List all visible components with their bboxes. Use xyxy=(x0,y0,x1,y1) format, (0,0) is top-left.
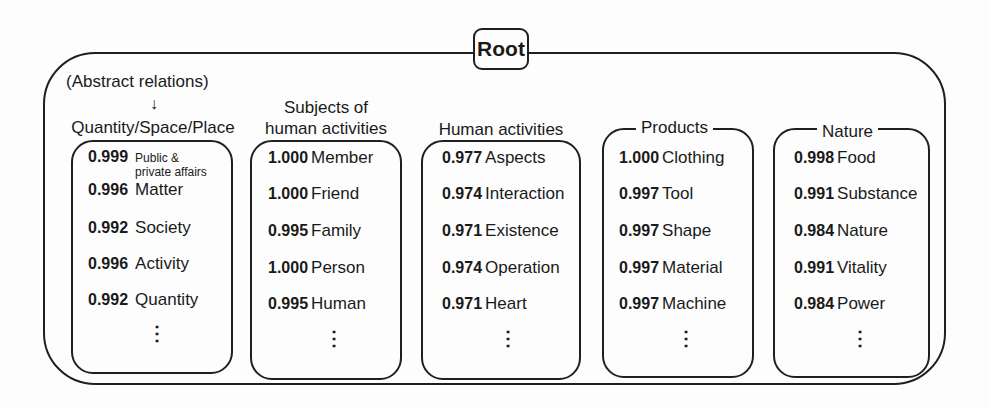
score: 0.992 xyxy=(88,291,128,309)
term: Human xyxy=(311,294,366,314)
column-title-human-activities: Human activities xyxy=(421,119,581,140)
score: 0.996 xyxy=(88,255,128,273)
list-item: 0.996 Matter xyxy=(88,180,183,200)
score: 0.997 xyxy=(619,259,659,277)
score: 0.995 xyxy=(268,295,308,313)
score: 0.991 xyxy=(794,185,834,203)
score: 1.000 xyxy=(268,259,308,277)
list-item: 1.000 Person xyxy=(268,258,365,278)
arrow-down-icon: ↓ xyxy=(150,95,158,113)
term: Heart xyxy=(485,294,527,314)
list-item: 0.991 Vitality xyxy=(794,258,887,278)
score: 0.984 xyxy=(794,295,834,313)
ellipsis-icon: ⋮ xyxy=(676,335,680,341)
ellipsis-icon: ⋮ xyxy=(850,335,854,341)
term: Friend xyxy=(311,184,359,204)
term: Quantity xyxy=(135,290,198,310)
term: Power xyxy=(837,294,885,314)
score: 0.971 xyxy=(442,222,482,240)
title-line1: Subjects of xyxy=(250,97,402,118)
score: 0.996 xyxy=(88,181,128,199)
list-item: 0.974 Operation xyxy=(442,258,560,278)
score: 0.971 xyxy=(442,295,482,313)
term: Family xyxy=(311,221,361,241)
term: Tool xyxy=(662,184,693,204)
score: 0.984 xyxy=(794,222,834,240)
score: 0.974 xyxy=(442,259,482,277)
term: Interaction xyxy=(485,184,564,204)
list-item: 0.995 Human xyxy=(268,294,366,314)
abstract-relations-note: (Abstract relations) xyxy=(66,72,209,92)
list-item: 0.999 Public & private affairs xyxy=(88,148,207,179)
column-title-products: Products xyxy=(636,117,713,138)
list-item: 0.977 Aspects xyxy=(442,148,546,168)
term: Member xyxy=(311,148,373,168)
score: 0.974 xyxy=(442,185,482,203)
term-line2: private affairs xyxy=(135,165,207,179)
ellipsis-icon: ⋮ xyxy=(147,330,151,336)
column-title-quantity-space-place: Quantity/Space/Place xyxy=(58,117,248,138)
list-item: 0.995 Family xyxy=(268,221,361,241)
root-node: Root xyxy=(473,28,529,70)
term: Material xyxy=(662,258,722,278)
list-item: 0.971 Heart xyxy=(442,294,527,314)
list-item: 0.984 Power xyxy=(794,294,885,314)
term: Food xyxy=(837,148,876,168)
score: 1.000 xyxy=(268,185,308,203)
term: Clothing xyxy=(662,148,724,168)
score: 0.977 xyxy=(442,149,482,167)
term: Shape xyxy=(662,221,711,241)
list-item: 0.996 Activity xyxy=(88,254,189,274)
score: 0.991 xyxy=(794,259,834,277)
term: Activity xyxy=(135,254,189,274)
score: 0.997 xyxy=(619,185,659,203)
list-item: 1.000 Member xyxy=(268,148,373,168)
list-item: 1.000 Friend xyxy=(268,184,359,204)
score: 0.998 xyxy=(794,149,834,167)
ellipsis-icon: ⋮ xyxy=(324,335,328,341)
list-item: 0.997 Material xyxy=(619,258,723,278)
term: Machine xyxy=(662,294,726,314)
score: 1.000 xyxy=(268,149,308,167)
score: 0.997 xyxy=(619,295,659,313)
term: Public & xyxy=(135,151,207,165)
term: Vitality xyxy=(837,258,887,278)
list-item: 0.998 Food xyxy=(794,148,876,168)
list-item: 0.992 Quantity xyxy=(88,290,198,310)
score: 1.000 xyxy=(619,149,659,167)
list-item: 0.997 Machine xyxy=(619,294,726,314)
list-item: 0.997 Tool xyxy=(619,184,693,204)
column-title-nature: Nature xyxy=(817,121,878,142)
list-item: 0.971 Existence xyxy=(442,221,559,241)
list-item: 0.997 Shape xyxy=(619,221,711,241)
term: Society xyxy=(135,218,191,238)
score: 0.997 xyxy=(619,222,659,240)
term: Existence xyxy=(485,221,559,241)
list-item: 0.974 Interaction xyxy=(442,184,564,204)
score: 0.999 xyxy=(88,148,128,166)
score: 0.995 xyxy=(268,222,308,240)
term: Person xyxy=(311,258,365,278)
score: 0.992 xyxy=(88,219,128,237)
term: Aspects xyxy=(485,148,545,168)
term: Operation xyxy=(485,258,560,278)
term: Nature xyxy=(837,221,888,241)
list-item: 1.000 Clothing xyxy=(619,148,724,168)
list-item: 0.992 Society xyxy=(88,218,191,238)
term: Substance xyxy=(837,184,917,204)
list-item: 0.991 Substance xyxy=(794,184,917,204)
list-item: 0.984 Nature xyxy=(794,221,888,241)
column-title-subjects: Subjects of human activities xyxy=(250,97,402,139)
title-line2: human activities xyxy=(250,118,402,139)
ellipsis-icon: ⋮ xyxy=(498,335,502,341)
term: Matter xyxy=(135,180,183,200)
